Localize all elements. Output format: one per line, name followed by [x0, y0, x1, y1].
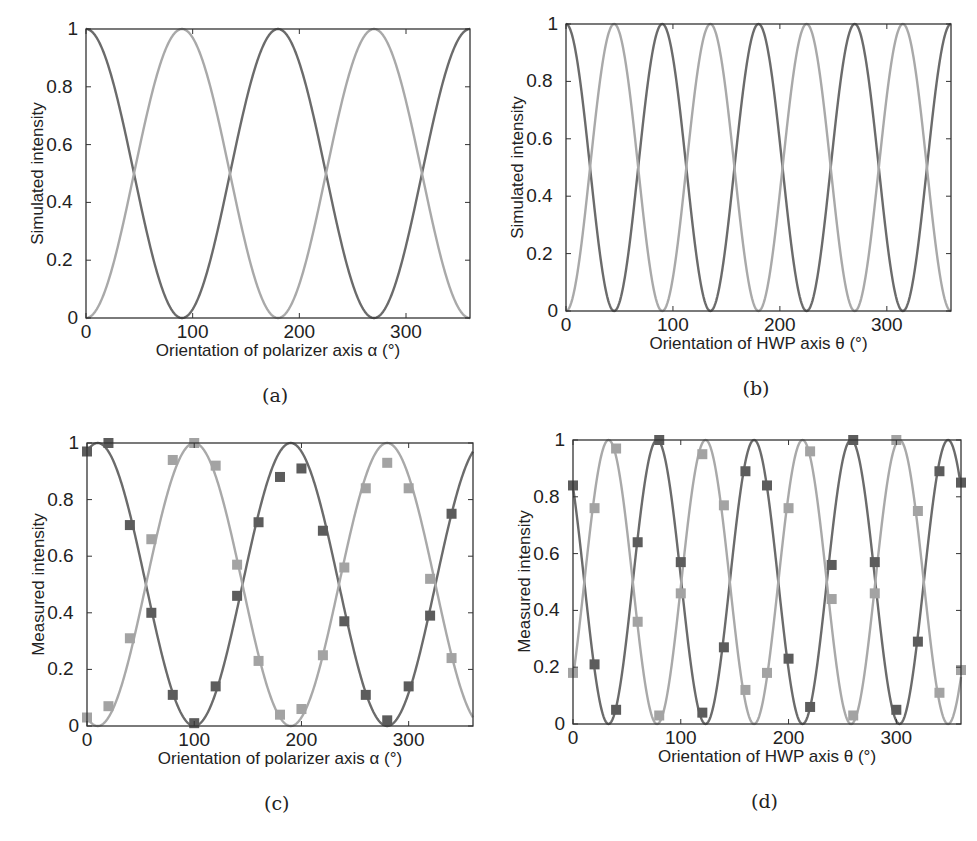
dark-data-point — [590, 659, 600, 669]
light-data-point — [719, 500, 729, 510]
plot-area — [0, 0, 977, 841]
panel-caption: (d) — [751, 792, 778, 811]
light-data-point — [611, 444, 621, 454]
dark-data-point — [633, 537, 643, 547]
x-tick-label: 200 — [773, 728, 805, 747]
dark-data-point — [611, 705, 621, 715]
y-tick-label: 0.4 — [533, 600, 559, 619]
light-data-point — [870, 588, 880, 598]
light-data-point — [762, 668, 772, 678]
light-data-point — [676, 588, 686, 598]
y-tick-label: 1 — [554, 430, 565, 449]
y-tick-label: 0.2 — [533, 657, 559, 676]
dark-data-point — [697, 708, 707, 718]
light-data-point — [848, 710, 858, 720]
dark-data-point — [827, 560, 837, 570]
y-tick-label: 0.6 — [533, 544, 559, 563]
light-data-point — [784, 503, 794, 513]
light-data-point — [590, 503, 600, 513]
x-tick-label: 100 — [665, 728, 697, 747]
light-data-point — [633, 617, 643, 627]
light-data-point — [934, 688, 944, 698]
light-data-point — [827, 594, 837, 604]
light-data-point — [740, 685, 750, 695]
dark-data-point — [676, 557, 686, 567]
dark-data-point — [762, 480, 772, 490]
x-tick-label: 0 — [568, 728, 579, 747]
dark-data-point — [740, 466, 750, 476]
dark-data-point — [784, 654, 794, 664]
x-tick-label: 300 — [880, 728, 912, 747]
dark-data-point — [719, 642, 729, 652]
dark-data-point — [934, 466, 944, 476]
dark-data-point — [870, 557, 880, 567]
y-tick-label: 0.8 — [533, 487, 559, 506]
dark-data-point — [913, 637, 923, 647]
y-tick-label: 0 — [554, 714, 565, 733]
light-data-point — [697, 449, 707, 459]
light-data-point — [805, 446, 815, 456]
light-data-point — [654, 710, 664, 720]
dark-data-point — [805, 702, 815, 712]
light-data-point — [913, 506, 923, 516]
y-axis-label: Measured intensity — [516, 482, 533, 682]
x-axis-label: Orientation of HWP axis θ (°) — [607, 748, 927, 765]
dark-data-point — [891, 705, 901, 715]
